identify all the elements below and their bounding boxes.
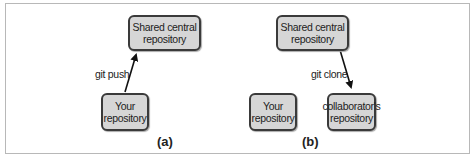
central-repo-b: Shared central repository [276,15,349,51]
your-repo-a: Your repository [101,93,149,131]
collaborator-repo: collaborator's repository [327,93,376,131]
caption-a: (a) [157,134,173,149]
arrows [0,0,476,168]
caption-b: (b) [302,134,319,149]
git-clone-label: git clone [311,68,347,80]
your-repo-b: Your repository [249,93,297,131]
central-repo-a: Shared central repository [128,15,201,51]
git-push-label: git push [95,68,129,80]
